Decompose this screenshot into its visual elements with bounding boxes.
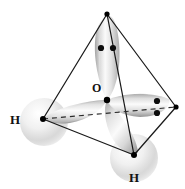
vertex-bottom bbox=[131, 152, 137, 158]
molecule-figure: O H H bbox=[0, 0, 185, 189]
electron-dot-right-1 bbox=[154, 98, 160, 104]
hydrogen-label-bottom: H bbox=[129, 171, 139, 184]
vertex-left bbox=[40, 116, 46, 122]
hydrogen-label-left: H bbox=[10, 113, 20, 126]
vertex-apex-top bbox=[104, 11, 109, 16]
vertex-right bbox=[173, 104, 178, 109]
oxygen-label: O bbox=[92, 82, 101, 94]
electron-dot-top-2 bbox=[110, 45, 116, 51]
vertex-center-oxygen bbox=[104, 97, 110, 103]
electron-dot-right-2 bbox=[154, 110, 160, 116]
electron-dot-top-1 bbox=[98, 45, 104, 51]
